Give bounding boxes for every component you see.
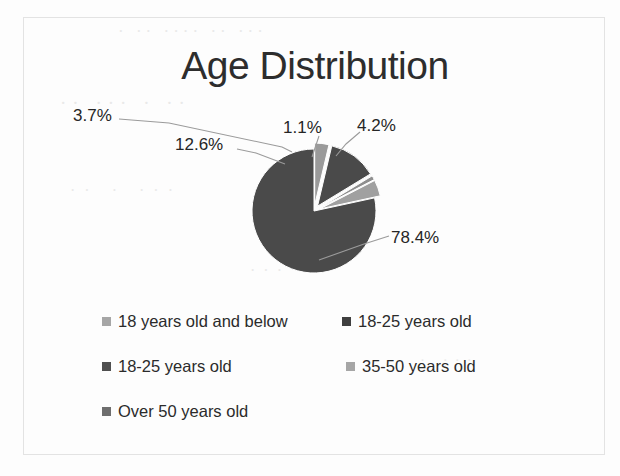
data-label-3-7: 3.7% — [73, 106, 112, 126]
legend-swatch-icon — [102, 317, 111, 326]
legend-swatch-icon — [102, 407, 111, 416]
data-label-78-4: 78.4% — [391, 228, 439, 248]
legend-swatch-icon — [102, 362, 111, 371]
data-label-4-2: 4.2% — [357, 116, 396, 136]
legend-label: 18-25 years old — [118, 357, 232, 376]
legend-row: 18 years old and below 18-25 years old — [74, 306, 544, 336]
chart-frame: Age Distribution 3.7% 12.6% 1.1% 4.2% 78… — [23, 17, 605, 455]
legend-row: 18-25 years old 35-50 years old — [74, 351, 544, 381]
legend-row: Over 50 years old — [74, 396, 544, 426]
legend-item-18-25-a[interactable]: 18-25 years old — [342, 312, 472, 331]
chart-legend: 18 years old and below 18-25 years old 1… — [74, 306, 544, 426]
legend-item-over-50[interactable]: Over 50 years old — [102, 402, 248, 421]
data-label-1-1: 1.1% — [283, 118, 322, 138]
legend-item-18-25-b[interactable]: 18-25 years old — [102, 357, 232, 376]
pie-slices-group — [252, 143, 380, 273]
legend-label: 18-25 years old — [358, 312, 472, 331]
legend-item-18-and-below[interactable]: 18 years old and below — [102, 312, 288, 331]
legend-swatch-icon — [342, 317, 351, 326]
data-label-12-6: 12.6% — [175, 135, 223, 155]
legend-item-35-50[interactable]: 35-50 years old — [346, 357, 476, 376]
legend-swatch-icon — [346, 362, 355, 371]
legend-label: Over 50 years old — [118, 402, 248, 421]
legend-label: 18 years old and below — [118, 312, 288, 331]
legend-label: 35-50 years old — [362, 357, 476, 376]
leader-line-12-6 — [237, 149, 285, 164]
scanned-page: · ·· ···· ·· ··· ·· ··· · ·· ·· · ··· ··… — [0, 0, 620, 476]
